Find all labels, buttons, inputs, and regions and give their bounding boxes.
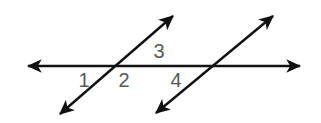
geometry-canvas: 1 2 3 4 — [0, 0, 321, 123]
lines-group — [28, 16, 300, 114]
angle-label-2: 2 — [118, 69, 129, 91]
angle-label-3: 3 — [153, 40, 164, 62]
transversal-right-line — [156, 16, 273, 113]
angle-label-4: 4 — [170, 69, 181, 91]
angle-label-1: 1 — [78, 69, 89, 91]
geometry-figure: 1 2 3 4 — [0, 0, 321, 123]
